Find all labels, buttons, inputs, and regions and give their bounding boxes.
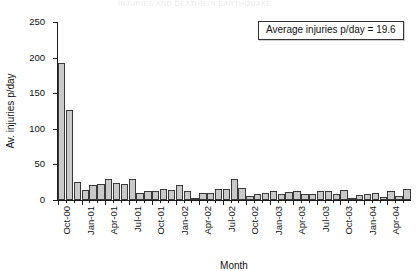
x-axis-tick-label: Jul-01: [133, 206, 143, 232]
bar: [97, 184, 104, 200]
x-axis-major-tick: [129, 200, 130, 205]
x-axis-tick-label: Oct-01: [156, 206, 166, 235]
bar: [317, 191, 324, 200]
x-axis-line: [57, 200, 411, 201]
bar: [270, 191, 277, 200]
x-axis-major-tick: [270, 200, 271, 205]
x-axis-minor-tick: [191, 200, 192, 203]
x-axis-tick-label: Jan-01: [86, 206, 96, 235]
x-axis-minor-tick: [89, 200, 90, 203]
bar: [285, 192, 292, 200]
y-axis-tick-label: 250: [29, 17, 45, 27]
x-axis-minor-tick: [278, 200, 279, 203]
x-axis-tick-label: Jan-02: [180, 206, 190, 235]
bar: [136, 193, 143, 200]
bar: [356, 195, 363, 200]
x-axis-major-tick: [293, 200, 294, 205]
bar: [105, 179, 112, 200]
x-axis-major-tick: [223, 200, 224, 205]
x-axis-tick-label: Jul-03: [321, 206, 331, 232]
bar: [380, 197, 387, 200]
x-axis-minor-tick: [325, 200, 326, 203]
bar: [364, 194, 371, 200]
x-axis-minor-tick: [285, 200, 286, 203]
x-axis-major-tick: [58, 200, 59, 205]
x-axis-tick-label: Jan-03: [274, 206, 284, 235]
x-axis-major-tick: [199, 200, 200, 205]
bar: [246, 196, 253, 200]
x-axis-major-tick: [105, 200, 106, 205]
x-axis-minor-tick: [356, 200, 357, 203]
x-axis-minor-tick: [309, 200, 310, 203]
x-axis-minor-tick: [380, 200, 381, 203]
x-axis-major-tick: [82, 200, 83, 205]
bar: [325, 191, 332, 200]
bar: [152, 191, 159, 200]
page-header-remnant: INJURIES AND DEATHS IN EARTHQUAKE 41: [118, 0, 370, 7]
bar: [160, 189, 167, 200]
bar: [231, 179, 238, 200]
x-axis-minor-tick: [254, 200, 255, 203]
x-axis-minor-tick: [144, 200, 145, 203]
y-axis-tick-label: 200: [29, 53, 45, 63]
x-axis-minor-tick: [348, 200, 349, 203]
bar: [144, 191, 151, 200]
x-axis-minor-tick: [238, 200, 239, 203]
y-axis-tick: [53, 93, 57, 94]
bar: [207, 193, 214, 200]
x-axis-minor-tick: [262, 200, 263, 203]
y-axis-tick: [53, 22, 57, 23]
x-axis-tick-label: Oct-02: [250, 206, 260, 235]
bar: [348, 198, 355, 200]
plot-area: 050100150200250 Av. injuries p/day Oct-0…: [57, 22, 411, 200]
x-axis-major-tick: [364, 200, 365, 205]
bar: [254, 194, 261, 200]
bar: [176, 185, 183, 200]
bar-series: [58, 22, 411, 200]
x-axis-minor-tick: [207, 200, 208, 203]
x-axis-major-tick: [246, 200, 247, 205]
y-axis-title: Av. injuries p/day: [5, 73, 16, 148]
x-axis-minor-tick: [66, 200, 67, 203]
bar: [215, 189, 222, 200]
y-axis-tick-label: 0: [40, 195, 45, 205]
bar: [403, 189, 410, 200]
bar: [168, 190, 175, 200]
x-axis-tick-label: Jan-04: [368, 206, 378, 235]
y-axis-tick: [53, 164, 57, 165]
x-axis-minor-tick: [403, 200, 404, 203]
bar: [301, 194, 308, 200]
x-axis-minor-tick: [160, 200, 161, 203]
y-axis-tick: [53, 200, 57, 201]
bar: [262, 193, 269, 200]
x-axis-tick-label: Apr-04: [391, 206, 401, 235]
bar: [238, 188, 245, 200]
y-axis-tick-label: 50: [34, 160, 45, 170]
x-axis-title: Month: [220, 260, 248, 271]
bar: [184, 191, 191, 200]
x-axis-minor-tick: [136, 200, 137, 203]
average-annotation-box: Average injuries p/day = 19.6: [258, 21, 404, 40]
x-axis-minor-tick: [168, 200, 169, 203]
bar: [278, 194, 285, 200]
x-axis-tick-label: Oct-03: [344, 206, 354, 235]
bar: [129, 179, 136, 200]
bar: [309, 194, 316, 200]
bar: [293, 191, 300, 200]
bar: [199, 193, 206, 200]
x-axis-major-tick: [152, 200, 153, 205]
bar: [395, 196, 402, 200]
average-annotation-text: Average injuries p/day = 19.6: [266, 24, 396, 35]
bar: [74, 182, 81, 200]
x-axis-major-tick: [340, 200, 341, 205]
x-axis-tick-label: Oct-00: [62, 206, 72, 235]
x-axis-tick-label: Apr-01: [109, 206, 119, 235]
bar: [333, 194, 340, 200]
x-axis-major-tick: [317, 200, 318, 205]
x-axis-minor-tick: [113, 200, 114, 203]
x-axis-minor-tick: [97, 200, 98, 203]
x-axis-minor-tick: [333, 200, 334, 203]
x-axis-tick-label: Apr-02: [203, 206, 213, 235]
x-axis-major-tick: [176, 200, 177, 205]
